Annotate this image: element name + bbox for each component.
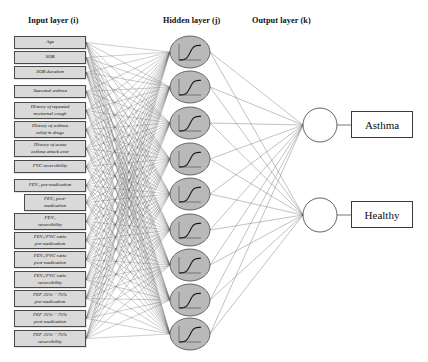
input-layer-title: Input layer (i) bbox=[28, 16, 78, 25]
input-node-2: SOB bbox=[14, 51, 86, 64]
input-node-8: FVC reversibility bbox=[14, 160, 86, 173]
hidden-layer-nodes bbox=[170, 36, 210, 350]
input-node-6: History of asthma relief in drugs bbox=[14, 121, 86, 138]
input-node-1: Age bbox=[14, 36, 86, 49]
input-node-10: FEV₁ post- medication bbox=[24, 194, 86, 211]
output-layer-nodes bbox=[303, 108, 351, 232]
input-node-16: FEF 25% ~ 75% post-medication bbox=[14, 310, 86, 327]
hidden-node-7 bbox=[170, 249, 210, 281]
input-node-7: History of acute asthma attack ever bbox=[14, 140, 86, 157]
input-node-12: FEV₁/FVC ratio pre-medication bbox=[14, 232, 86, 249]
output-layer-title: Output layer (k) bbox=[252, 16, 311, 25]
input-node-3: SOB duration bbox=[14, 66, 86, 79]
output-label-box-2: Healthy bbox=[351, 201, 413, 228]
input-node-4: Seasonal asthma bbox=[14, 85, 86, 98]
hidden-node-5 bbox=[170, 178, 210, 210]
output-node-2 bbox=[303, 198, 337, 232]
hidden-node-2 bbox=[170, 71, 210, 103]
input-node-5: History of repeated nocturnal cough bbox=[14, 102, 86, 119]
hidden-node-8 bbox=[170, 284, 210, 316]
hidden-node-9 bbox=[170, 318, 210, 350]
figure-caption bbox=[0, 350, 428, 362]
hidden-node-6 bbox=[170, 214, 210, 246]
edges-hidden-to-output bbox=[210, 52, 303, 334]
input-node-9: FEV₁ pre-medication bbox=[14, 179, 86, 192]
output-label-box-1: Asthma bbox=[351, 111, 413, 138]
input-node-13: FEV₁/FVC ratio post-medication bbox=[14, 251, 86, 268]
hidden-node-1 bbox=[170, 36, 210, 68]
hidden-node-3 bbox=[170, 107, 210, 139]
input-node-14: FEV₁/FVC ratio reversibility bbox=[14, 271, 86, 288]
input-node-15: FEF 25% ~ 75% pre-medication bbox=[14, 290, 86, 307]
input-node-17: FEF 25% ~ 75% reversibility bbox=[14, 330, 86, 347]
output-node-1 bbox=[303, 108, 337, 142]
hidden-layer-title: Hidden layer (j) bbox=[163, 16, 220, 25]
hidden-node-4 bbox=[170, 143, 210, 175]
edges-input-to-hidden bbox=[86, 43, 170, 339]
input-node-11: FEV₁ reversibility bbox=[14, 213, 86, 230]
